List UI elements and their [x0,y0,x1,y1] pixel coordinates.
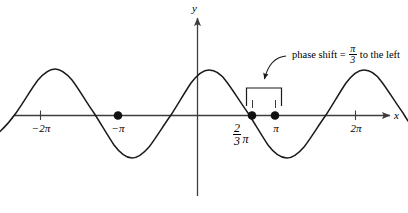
annotation-leader-line [265,56,287,79]
fraction-denominator: 3 [233,135,241,147]
x-tick-label-pi: π [268,123,284,134]
annotation-suffix: to the left [360,50,400,61]
fraction-two-thirds: 2 3 [233,122,241,147]
annotation-fraction: π 3 [349,44,357,65]
annotation-fraction-denominator: 3 [349,55,356,65]
point-two-thirds-pi [248,111,257,120]
x-tick-label-two-thirds-pi: 2 3 π [233,120,249,148]
annotation-fraction-numerator: π [349,44,356,54]
x-axis-label: x [394,110,399,121]
pi-symbol: π [243,133,249,145]
graph-canvas [0,0,408,213]
cosine-curve [0,69,408,158]
trig-graph-figure: y x −2π −π π 2π 2 3 π phase shift = π 3 … [0,0,408,213]
x-tick-label-2pi: 2π [343,123,369,134]
x-tick-label-minus-pi: −π [106,123,130,134]
point-pi [271,111,280,120]
point-minus-pi [114,111,123,120]
annotation-prefix: phase shift = [292,50,346,61]
phase-shift-bracket [247,88,282,106]
x-tick-label-minus-2pi: −2π [26,123,56,134]
fraction-numerator: 2 [233,122,241,134]
y-axis-label: y [192,3,197,14]
phase-shift-annotation: phase shift = π 3 to the left [292,45,400,66]
